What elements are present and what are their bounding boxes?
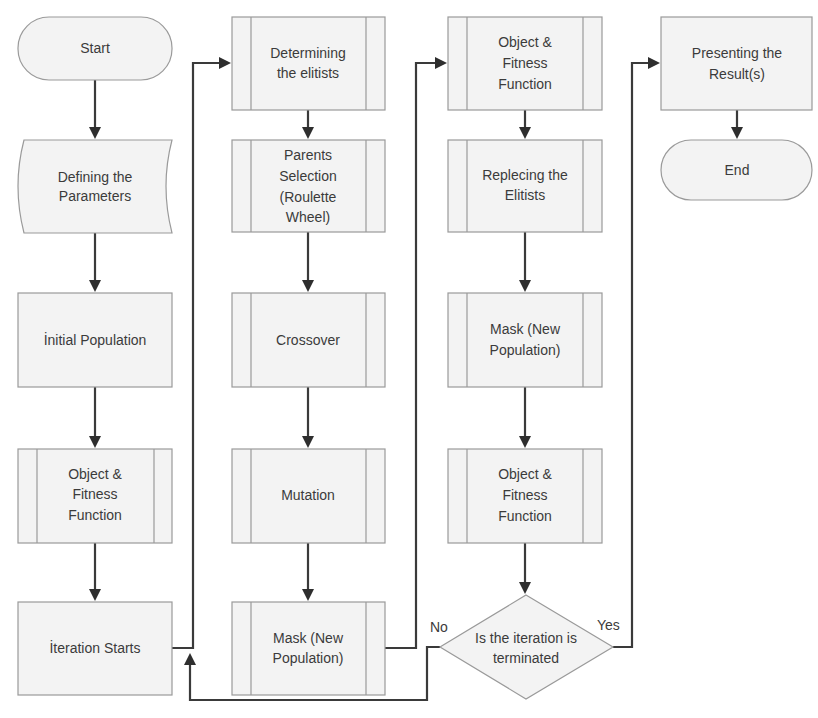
svg-text:End: End bbox=[725, 162, 750, 178]
svg-text:terminated: terminated bbox=[493, 650, 559, 666]
node-parents-selection: Parents Selection (Roulette Wheel) bbox=[232, 140, 385, 232]
node-iteration-starts: İteration Starts bbox=[18, 602, 172, 695]
node-decision-iteration-terminated: Is the iteration is terminated bbox=[440, 595, 613, 699]
branch-label-yes: Yes bbox=[597, 617, 620, 633]
svg-text:Mutation: Mutation bbox=[281, 487, 335, 503]
svg-text:(Roulette: (Roulette bbox=[280, 189, 337, 205]
svg-text:Mask (New: Mask (New bbox=[273, 630, 344, 646]
svg-text:Wheel): Wheel) bbox=[286, 209, 330, 225]
svg-text:Population): Population) bbox=[273, 650, 344, 666]
svg-text:Function: Function bbox=[68, 507, 122, 523]
svg-text:Parents: Parents bbox=[284, 147, 332, 163]
svg-text:İnitial Population: İnitial Population bbox=[44, 331, 147, 348]
svg-text:Start: Start bbox=[80, 40, 110, 56]
node-replacing-elitists: Replecing the Elitists bbox=[448, 140, 602, 232]
svg-text:the elitists: the elitists bbox=[277, 65, 339, 81]
connectors bbox=[89, 57, 743, 700]
svg-text:Is the iteration is: Is the iteration is bbox=[475, 630, 577, 646]
svg-text:İteration Starts: İteration Starts bbox=[49, 639, 140, 656]
svg-text:Parameters: Parameters bbox=[59, 188, 131, 204]
svg-text:Object &: Object & bbox=[68, 466, 122, 482]
svg-text:Selection: Selection bbox=[279, 168, 337, 184]
svg-text:Replecing the: Replecing the bbox=[482, 167, 568, 183]
svg-text:Function: Function bbox=[498, 76, 552, 92]
flowchart-canvas: Start Defining the Parameters İnitial Po… bbox=[0, 0, 818, 718]
svg-text:Object &: Object & bbox=[498, 34, 552, 50]
svg-text:Fitness: Fitness bbox=[502, 487, 547, 503]
node-mask-new-population-1: Mask (New Population) bbox=[232, 602, 385, 695]
svg-text:Result(s): Result(s) bbox=[709, 66, 765, 82]
node-mask-new-population-2: Mask (New Population) bbox=[448, 293, 602, 387]
node-fitness-function-1: Object & Fitness Function bbox=[18, 449, 172, 543]
node-end: End bbox=[661, 140, 812, 200]
svg-text:Function: Function bbox=[498, 508, 552, 524]
svg-text:Object &: Object & bbox=[498, 466, 552, 482]
node-mutation: Mutation bbox=[232, 449, 385, 543]
branch-label-no: No bbox=[430, 619, 448, 635]
svg-text:Determining: Determining bbox=[270, 45, 345, 61]
node-fitness-function-3: Object & Fitness Function bbox=[448, 449, 602, 543]
node-crossover: Crossover bbox=[232, 293, 385, 387]
node-defining-parameters: Defining the Parameters bbox=[18, 140, 172, 233]
svg-text:Fitness: Fitness bbox=[72, 486, 117, 502]
svg-text:Population): Population) bbox=[490, 342, 561, 358]
node-presenting-results: Presenting the Result(s) bbox=[661, 17, 812, 110]
node-determining-elitists: Determining the elitists bbox=[232, 17, 385, 110]
svg-text:Fitness: Fitness bbox=[502, 55, 547, 71]
node-fitness-function-2: Object & Fitness Function bbox=[448, 17, 602, 110]
node-start: Start bbox=[18, 17, 172, 80]
svg-text:Defining the: Defining the bbox=[58, 169, 133, 185]
svg-text:Elitists: Elitists bbox=[505, 187, 545, 203]
svg-text:Presenting the: Presenting the bbox=[692, 45, 782, 61]
svg-text:Crossover: Crossover bbox=[276, 332, 340, 348]
svg-text:Mask (New: Mask (New bbox=[490, 321, 561, 337]
node-initial-population: İnitial Population bbox=[18, 293, 172, 387]
